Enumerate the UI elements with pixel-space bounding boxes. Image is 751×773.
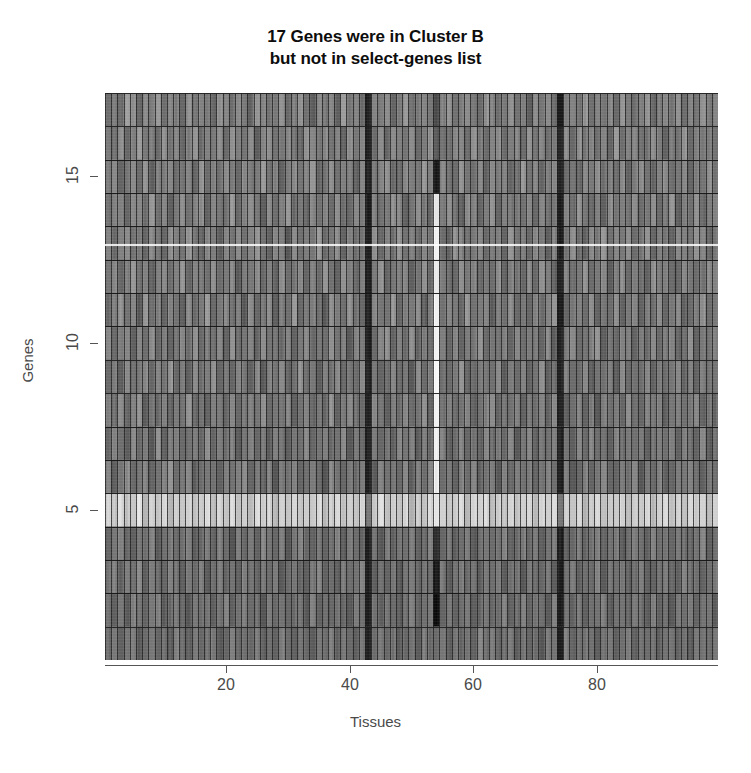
page-title: 17 Genes were in Cluster B but not in se…: [0, 26, 751, 70]
chart-page: 17 Genes were in Cluster B but not in se…: [0, 0, 751, 773]
y-tick-mark: [90, 176, 98, 177]
x-axis-line: [105, 665, 718, 666]
x-tick-mark: [350, 665, 351, 673]
x-tick-mark: [226, 665, 227, 673]
x-tick-label: 40: [320, 676, 380, 694]
x-tick-mark: [597, 665, 598, 673]
y-tick-label: 5: [64, 496, 82, 522]
heatmap-plot-area: [105, 93, 718, 660]
y-tick-label: 15: [64, 162, 82, 188]
y-tick-label: 10: [64, 329, 82, 355]
y-tick-mark: [90, 510, 98, 511]
y-axis-line: [98, 93, 99, 660]
x-tick-label: 20: [196, 676, 256, 694]
heatmap-canvas: [105, 93, 718, 660]
x-tick-label: 80: [567, 676, 627, 694]
y-tick-mark: [90, 343, 98, 344]
x-tick-mark: [473, 665, 474, 673]
y-axis-title: Genes: [19, 321, 36, 401]
x-tick-label: 60: [443, 676, 503, 694]
x-axis-title: Tissues: [0, 713, 751, 730]
